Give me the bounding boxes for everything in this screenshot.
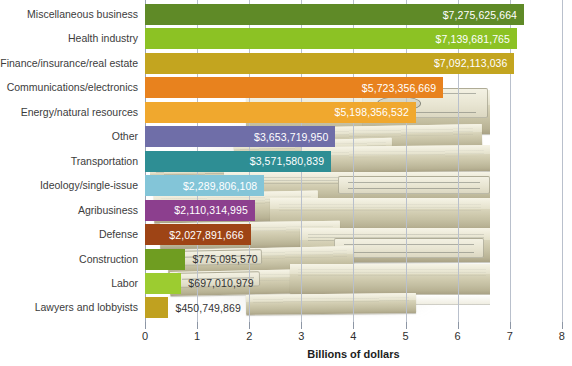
bar[interactable]: $5,198,356,532 (145, 102, 416, 123)
tick-label-2: 2 (246, 330, 252, 342)
bar-row: Health industry$7,139,681,765 (0, 28, 572, 49)
bar-value-label: $2,289,806,108 (183, 180, 264, 192)
x-axis: 012345678 Billions of dollars (0, 322, 572, 366)
bar-value-label: $5,723,356,669 (362, 82, 443, 94)
bar-value-label: $7,275,625,664 (443, 9, 524, 21)
bar[interactable]: $2,110,314,995 (145, 200, 255, 221)
category-label: Transportation (0, 151, 138, 172)
bar-rows: Miscellaneous business$7,275,625,664Heal… (0, 0, 572, 322)
tick-label-1: 1 (194, 330, 200, 342)
bar-chart: Miscellaneous business$7,275,625,664Heal… (0, 0, 572, 366)
category-label: Ideology/single-issue (0, 175, 138, 196)
tick-mark-0 (145, 322, 146, 329)
bar[interactable]: $5,723,356,669 (145, 77, 443, 98)
bar-row: Labor$697,010,979 (0, 273, 572, 294)
bar[interactable]: $2,289,806,108 (145, 175, 264, 196)
category-label: Energy/natural resources (0, 102, 138, 123)
bar-row: Finance/insurance/real estate$7,092,113,… (0, 53, 572, 74)
bar-row: Energy/natural resources$5,198,356,532 (0, 102, 572, 123)
tick-label-7: 7 (507, 330, 513, 342)
bar-row: Transportation$3,571,580,839 (0, 151, 572, 172)
tick-label-0: 0 (142, 330, 148, 342)
bar-row: Communications/electronics$5,723,356,669 (0, 77, 572, 98)
bar-value-label: $3,653,719,950 (254, 131, 335, 143)
bar-value-label: $775,095,570 (185, 253, 257, 265)
tick-label-8: 8 (559, 330, 565, 342)
tick-mark-8 (562, 322, 563, 329)
bar[interactable]: $450,749,869 (145, 297, 168, 318)
tick-label-5: 5 (402, 330, 408, 342)
bar-value-label: $450,749,869 (168, 302, 240, 314)
bar-row: Agribusiness$2,110,314,995 (0, 200, 572, 221)
bar[interactable]: $7,275,625,664 (145, 4, 524, 25)
bar-row: Other$3,653,719,950 (0, 126, 572, 147)
bar-row: Ideology/single-issue$2,289,806,108 (0, 175, 572, 196)
category-label: Other (0, 126, 138, 147)
tick-mark-5 (406, 322, 407, 329)
bar[interactable]: $775,095,570 (145, 249, 185, 270)
bar-row: Miscellaneous business$7,275,625,664 (0, 4, 572, 25)
tick-mark-7 (510, 322, 511, 329)
bar[interactable]: $2,027,891,666 (145, 224, 251, 245)
bar-row: Defense$2,027,891,666 (0, 224, 572, 245)
bar-value-label: $5,198,356,532 (334, 106, 415, 118)
bar-value-label: $7,092,113,036 (434, 57, 515, 69)
bar-row: Lawyers and lobbyists$450,749,869 (0, 297, 572, 318)
tick-mark-2 (249, 322, 250, 329)
bar-row: Construction$775,095,570 (0, 249, 572, 270)
bar-value-label: $697,010,979 (181, 277, 253, 289)
bar[interactable]: $3,571,580,839 (145, 151, 331, 172)
bar-value-label: $3,571,580,839 (250, 155, 331, 167)
category-label: Construction (0, 249, 138, 270)
category-label: Finance/insurance/real estate (0, 53, 138, 74)
tick-mark-4 (353, 322, 354, 329)
x-axis-title: Billions of dollars (145, 348, 562, 360)
bar-value-label: $2,110,314,995 (174, 204, 255, 216)
tick-label-4: 4 (350, 330, 356, 342)
tick-mark-1 (197, 322, 198, 329)
tick-mark-6 (458, 322, 459, 329)
bar-value-label: $2,027,891,666 (169, 229, 250, 241)
category-label: Defense (0, 224, 138, 245)
bar[interactable]: $7,139,681,765 (145, 28, 517, 49)
tick-label-6: 6 (455, 330, 461, 342)
category-label: Labor (0, 273, 138, 294)
category-label: Lawyers and lobbyists (0, 297, 138, 318)
tick-mark-3 (301, 322, 302, 329)
bar[interactable]: $3,653,719,950 (145, 126, 335, 147)
category-label: Communications/electronics (0, 77, 138, 98)
tick-label-3: 3 (298, 330, 304, 342)
bar-value-label: $7,139,681,765 (436, 33, 517, 45)
bar[interactable]: $697,010,979 (145, 273, 181, 294)
bar[interactable]: $7,092,113,036 (145, 53, 514, 74)
category-label: Health industry (0, 28, 138, 49)
category-label: Miscellaneous business (0, 4, 138, 25)
category-label: Agribusiness (0, 200, 138, 221)
